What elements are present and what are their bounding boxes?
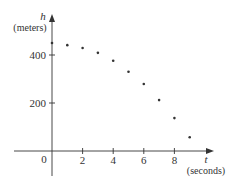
data-point: [158, 99, 161, 102]
data-point: [51, 42, 54, 45]
y-axis-arrow-icon: [49, 14, 55, 22]
y-tick-label: 400: [30, 49, 47, 61]
x-axis-label: t: [204, 153, 208, 165]
y-ticks: 200400: [30, 49, 56, 109]
y-axis-unit: (meters): [13, 22, 46, 34]
origin-label: 0: [41, 153, 47, 165]
y-axis: [49, 14, 55, 176]
data-point: [66, 44, 69, 47]
x-tick-label: 4: [110, 154, 116, 166]
data-point: [112, 59, 115, 62]
data-point: [127, 71, 130, 74]
data-point: [173, 117, 176, 120]
data-points: [51, 42, 191, 139]
data-point: [188, 136, 191, 139]
x-axis-unit: (seconds): [187, 165, 225, 177]
data-point: [81, 47, 84, 50]
x-tick-label: 6: [141, 154, 147, 166]
data-point: [97, 52, 100, 55]
chart: 2468 200400 0 h (meters) t (seconds): [0, 0, 242, 188]
data-point: [143, 83, 146, 86]
x-tick-label: 2: [80, 154, 86, 166]
y-tick-label: 200: [30, 97, 47, 109]
x-tick-label: 8: [172, 154, 178, 166]
y-axis-label: h: [40, 10, 46, 22]
